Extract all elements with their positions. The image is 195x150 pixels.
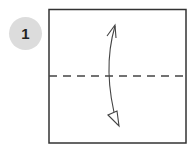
origami-diagram [0,0,195,150]
